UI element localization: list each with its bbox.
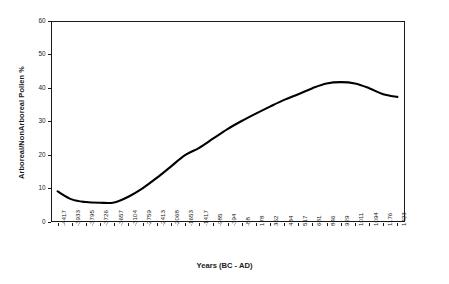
x-axis-tick--4417: -4417 [60,210,67,226]
x-tick-mark [72,223,73,226]
y-axis-tick-50: 50 [26,50,46,57]
x-axis-tick--2068: -2068 [173,210,180,226]
x-tick-mark [114,223,115,226]
x-axis-tick-1094: 1094 [372,212,379,226]
x-axis-tick-352: 352 [272,215,279,225]
x-axis-tick--3726: -3726 [102,210,109,226]
x-axis-tick--985: -985 [216,213,223,225]
x-tick-mark [284,223,285,226]
x-tick-mark [143,223,144,226]
x-tick-mark [100,223,101,226]
y-axis-tick-0: 0 [26,218,46,225]
x-axis-tick-1423: 1423 [400,212,407,226]
x-axis-tick-517: 517 [301,215,308,225]
x-tick-mark [213,223,214,226]
x-axis-tick--88: -88 [244,217,251,226]
x-tick-mark [298,223,299,226]
x-axis-tick--2759: -2759 [145,210,152,226]
x-axis-tick--3933: -3933 [74,210,81,226]
x-tick-mark [355,223,356,226]
x-tick-mark [383,223,384,226]
x-tick-mark [341,223,342,226]
x-tick-mark [199,223,200,226]
plot-frame [51,21,405,222]
x-axis-tick-681: 681 [315,215,322,225]
x-tick-mark [270,223,271,226]
y-tick-mark [48,222,51,223]
x-axis-tick--3795: -3795 [88,210,95,226]
x-tick-mark [86,223,87,226]
x-tick-mark [256,223,257,226]
x-axis-tick-1176: 1176 [386,212,393,225]
y-axis-tick-40: 40 [26,84,46,91]
x-axis-tick--3104: -3104 [131,210,138,226]
chart-figure: Arboreal/NonArboreal Pollen % 0102030405… [0,0,449,284]
y-axis-tick-20: 20 [26,151,46,158]
x-axis-tick--3657: -3657 [117,210,124,226]
x-tick-mark [228,223,229,226]
x-tick-mark [369,223,370,226]
x-axis-tick--1417: -1417 [202,210,209,226]
x-tick-mark [312,223,313,226]
x-tick-mark [157,223,158,226]
x-axis-tick-434: 434 [287,215,294,225]
x-tick-mark [185,223,186,226]
y-axis-tick-60: 60 [26,17,46,24]
x-axis-tick--2413: -2413 [159,210,166,226]
x-axis-tick--1653: -1653 [187,210,194,226]
x-tick-mark [327,223,328,226]
x-axis-tick-846: 846 [329,215,336,225]
x-axis-tick-1011: 1011 [357,212,364,225]
y-axis-tick-10: 10 [26,184,46,191]
x-axis-title: Years (BC - AD) [0,261,449,270]
x-axis-tick-929: 929 [343,215,350,225]
x-tick-mark [171,223,172,226]
x-tick-mark [242,223,243,226]
x-tick-mark [58,223,59,226]
y-axis-tick-30: 30 [26,117,46,124]
x-axis-tick-178: 178 [258,215,265,225]
x-axis-tick--394: -394 [230,213,237,225]
x-tick-mark [397,223,398,226]
y-axis-title-text: Arboreal/NonArboreal Pollen % [17,66,26,179]
x-tick-mark [128,223,129,226]
